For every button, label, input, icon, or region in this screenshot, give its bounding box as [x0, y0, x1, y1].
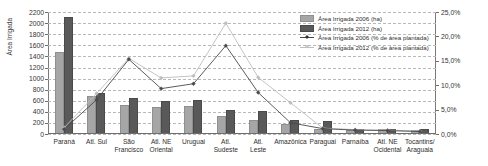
legend-swatch-bar-dark — [300, 24, 314, 33]
line-2006 — [64, 46, 420, 132]
y-tick-label-right: 0,0% — [441, 131, 475, 138]
legend-label: Área Irrigada 2006 (% de área plantada) — [318, 34, 429, 41]
x-axis-labels: ParanáAtl. SulSão FranciscoAtl. NE Orien… — [48, 136, 436, 166]
legend-item-area-irrigada-2012-pct: Área Irrigada 2012 (% de área plantada) — [300, 43, 429, 52]
y-tick-label-left: 0 — [18, 131, 44, 138]
y-tick-label-left: 200 — [18, 119, 44, 126]
y-tick-label-right: 20,0% — [441, 33, 475, 40]
y-tick-label-left: 600 — [18, 97, 44, 104]
legend-swatch-bar-light — [300, 14, 314, 23]
y-tick-label-left: 2000 — [18, 20, 44, 27]
legend-label: Área Irrigada 2012 (ha) — [318, 25, 382, 32]
gridline — [48, 134, 436, 135]
legend-item-area-irrigada-2006-ha: Área Irrigada 2006 (ha) — [300, 14, 429, 23]
x-tick-label: Tocantins/ Araguaia — [398, 138, 442, 154]
y-tick-label-left: 1200 — [18, 64, 44, 71]
legend-label: Área Irrigada 2012 (% de área plantada) — [318, 44, 429, 51]
legend-item-area-irrigada-2012-ha: Área Irrigada 2012 (ha) — [300, 24, 429, 33]
chart-legend: Área Irrigada 2006 (ha) Área Irrigada 20… — [300, 14, 429, 52]
y-tick-label-right: 10,0% — [441, 82, 475, 89]
legend-swatch-line-dark — [300, 33, 314, 42]
y-tick-mark-right — [436, 85, 439, 86]
y-tick-mark-right — [436, 61, 439, 62]
y-tick-label-left: 400 — [18, 108, 44, 115]
chart-container: Área Irrigada 22002000180016001400120010… — [0, 0, 488, 166]
y-tick-mark-right — [436, 36, 439, 37]
legend-item-area-irrigada-2006-pct: Área Irrigada 2006 (% de área plantada) — [300, 33, 429, 42]
y-tick-label-left: 1400 — [18, 53, 44, 60]
y-tick-label-left: 1600 — [18, 42, 44, 49]
x-axis-line — [48, 133, 436, 134]
y-tick-mark-right — [436, 12, 439, 13]
y-tick-mark-right — [436, 110, 439, 111]
y-tick-label-left: 1800 — [18, 31, 44, 38]
y-tick-label-right: 15,0% — [441, 57, 475, 64]
legend-label: Área Irrigada 2006 (ha) — [318, 15, 382, 22]
y-tick-mark-right — [436, 134, 439, 135]
y-tick-label-left: 800 — [18, 86, 44, 93]
legend-swatch-line-pale — [300, 43, 314, 52]
y-tick-label-right: 25,0% — [441, 9, 475, 16]
y-axis-title-left: Área Irrigada — [6, 42, 13, 56]
y-tick-label-right: 5,0% — [441, 106, 475, 113]
y-tick-label-left: 2200 — [18, 9, 44, 16]
y-tick-label-left: 1000 — [18, 75, 44, 82]
